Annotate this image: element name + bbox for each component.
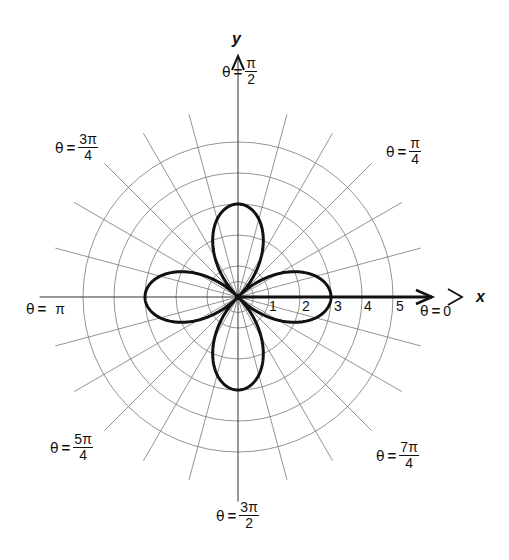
angle-label-3pi-over-2: θ = 3π 2 xyxy=(216,500,259,531)
theta-symbol: θ xyxy=(216,508,225,524)
fraction: 5π 4 xyxy=(73,432,92,463)
radial-tick-2: 2 xyxy=(302,298,310,314)
angle-label-pi: θ = π xyxy=(26,300,65,317)
fraction: π 2 xyxy=(245,56,257,87)
angle-label-0: θ = 0 xyxy=(420,302,451,319)
angle-label-pi-over-4: θ = π 4 xyxy=(386,136,421,167)
angle-value: π xyxy=(55,301,65,317)
fraction: 3π 4 xyxy=(78,132,97,163)
theta-symbol: θ xyxy=(376,448,385,464)
angle-label-3pi-over-4: θ = 3π 4 xyxy=(55,132,98,163)
equals-sign: = xyxy=(38,300,47,317)
theta-symbol: θ xyxy=(50,440,59,456)
fraction: 3π 2 xyxy=(239,500,258,531)
x-axis-label: x xyxy=(476,288,485,306)
theta-symbol: θ xyxy=(26,301,35,317)
fraction: π 4 xyxy=(409,136,421,167)
equals-sign: = xyxy=(388,447,397,464)
y-axis-label: y xyxy=(232,30,241,48)
radial-tick-3: 3 xyxy=(334,298,342,314)
angle-value: 0 xyxy=(443,303,451,319)
theta-symbol: θ xyxy=(386,144,395,160)
equals-sign: = xyxy=(228,507,237,524)
theta-symbol: θ xyxy=(420,303,429,319)
radial-tick-4: 4 xyxy=(364,298,372,314)
equals-sign: = xyxy=(432,302,441,319)
angle-label-pi-over-2: θ = π 2 xyxy=(222,56,257,87)
equals-sign: = xyxy=(67,139,76,156)
theta-symbol: θ xyxy=(222,64,231,80)
equals-sign: = xyxy=(234,63,243,80)
equals-sign: = xyxy=(62,439,71,456)
radial-tick-5: 5 xyxy=(396,298,404,314)
theta-symbol: θ xyxy=(55,140,64,156)
angle-label-5pi-over-4: θ = 5π 4 xyxy=(50,432,93,463)
angle-label-7pi-over-4: θ = 7π 4 xyxy=(376,440,419,471)
fraction: 7π 4 xyxy=(399,440,418,471)
radial-tick-1: 1 xyxy=(269,298,277,314)
equals-sign: = xyxy=(398,143,407,160)
